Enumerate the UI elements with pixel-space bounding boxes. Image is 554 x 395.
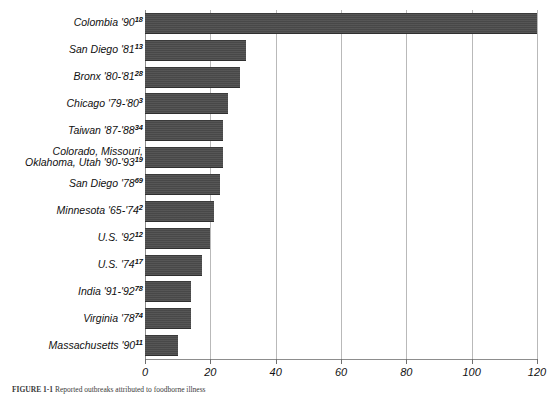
bar-label: Minnesota '65-'742	[0, 205, 143, 217]
x-tick-label-20: 20	[204, 366, 216, 378]
chart-row: Massachusetts '9011	[0, 332, 554, 359]
bar-label: San Diego '8113	[0, 44, 143, 56]
bar-label: Virginia '7874	[0, 313, 143, 325]
bar-label: U.S. '9212	[0, 232, 143, 244]
caption-label: FIGURE 1-1	[12, 385, 53, 394]
bar	[145, 201, 214, 222]
bar-label: India '91-'9278	[0, 286, 143, 298]
bar	[145, 228, 210, 249]
chart-row: Colombia '9018	[0, 10, 554, 37]
bar	[145, 67, 240, 88]
x-tick-80	[406, 359, 407, 364]
x-tick-label-120: 120	[528, 366, 546, 378]
x-tick-label-40: 40	[270, 366, 282, 378]
bar-label: San Diego '7869	[0, 178, 143, 190]
bar	[145, 40, 246, 61]
x-tick-40	[276, 359, 277, 364]
x-tick-100	[472, 359, 473, 364]
bar	[145, 147, 223, 168]
bar	[145, 93, 228, 114]
chart-row: Taiwan '87-'8834	[0, 117, 554, 144]
bar	[145, 174, 220, 195]
chart-row: Colorado, Missouri,Oklahoma, Utah '90-'9…	[0, 144, 554, 171]
bar-label: Colorado, Missouri,Oklahoma, Utah '90-'9…	[0, 146, 143, 169]
x-tick-label-80: 80	[400, 366, 412, 378]
figure-container: Colombia '9018San Diego '8113Bronx '80-'…	[0, 0, 554, 395]
chart-row: San Diego '8113	[0, 37, 554, 64]
chart-row: Minnesota '65-'742	[0, 198, 554, 225]
bar	[145, 13, 537, 34]
bar	[145, 255, 202, 276]
x-tick-120	[537, 359, 538, 364]
bar-label: Massachusetts '9011	[0, 340, 143, 352]
caption-text: Reported outbreaks attributed to foodbor…	[55, 385, 206, 394]
bar-rows: Colombia '9018San Diego '8113Bronx '80-'…	[0, 10, 554, 359]
bar-label: Taiwan '87-'8834	[0, 125, 143, 137]
bar	[145, 281, 191, 302]
bar-label: Chicago '79-'803	[0, 98, 143, 110]
bar	[145, 335, 178, 356]
chart-row: U.S. '9212	[0, 225, 554, 252]
bar-label: U.S. '7417	[0, 259, 143, 271]
x-tick-60	[341, 359, 342, 364]
bar-label: Bronx '80-'8128	[0, 71, 143, 83]
bar	[145, 120, 223, 141]
chart-row: Virginia '7874	[0, 305, 554, 332]
x-tick-label-60: 60	[335, 366, 347, 378]
chart-row: India '91-'9278	[0, 278, 554, 305]
figure-caption: FIGURE 1-1 Reported outbreaks attributed…	[12, 385, 542, 395]
chart-row: Chicago '79-'803	[0, 91, 554, 118]
bar-label: Colombia '9018	[0, 17, 143, 29]
x-tick-20	[210, 359, 211, 364]
x-tick-0	[145, 359, 146, 364]
x-tick-label-0: 0	[142, 366, 148, 378]
chart-row: San Diego '7869	[0, 171, 554, 198]
chart-row: Bronx '80-'8128	[0, 64, 554, 91]
chart-row: U.S. '7417	[0, 252, 554, 279]
x-tick-label-100: 100	[462, 366, 480, 378]
bar	[145, 308, 191, 329]
